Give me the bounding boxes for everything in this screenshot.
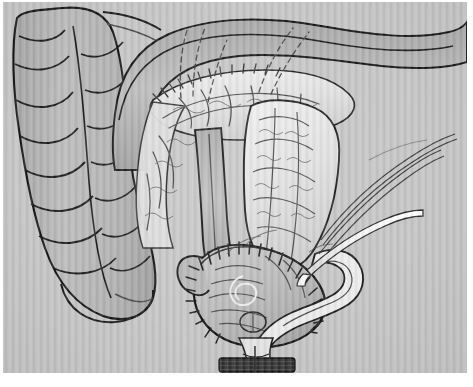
- illustration-plate: [3, 2, 467, 373]
- anatomical-illustration: [3, 2, 467, 373]
- structure-mesenteric-pedicle: [244, 100, 339, 269]
- figure-root: Surgical anatomy illustration — colonic …: [0, 0, 473, 387]
